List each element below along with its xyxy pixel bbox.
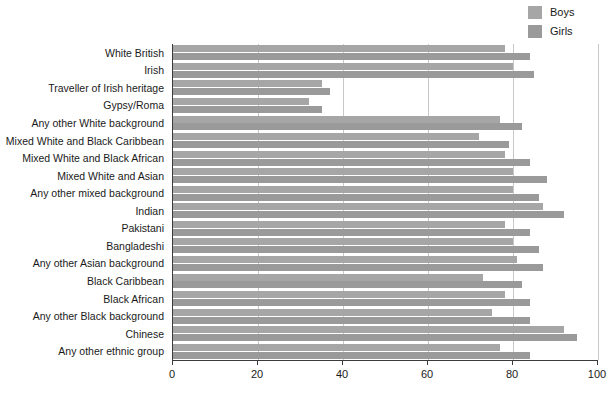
chart-root: Boys Girls White BritishIrishTraveller o… [0,0,611,395]
plot-inner [173,44,598,360]
legend-swatch-boys [528,6,542,19]
legend-swatch-girls [528,25,542,38]
y-axis-label: Any other White background [32,117,165,129]
y-axis-label: Any other ethnic group [58,345,164,357]
bar-boys [173,326,564,333]
x-axis-tick [512,360,513,365]
bar-boys [173,309,492,316]
y-axis-label: Irish [144,64,164,76]
bar-girls [173,352,530,359]
y-axis-label: Any other mixed background [30,187,164,199]
bar-boys [173,274,483,281]
y-axis-label: Bangladeshi [106,240,164,252]
bar-boys [173,344,500,351]
legend-item-boys: Boys [528,4,608,21]
plot-area [172,44,598,360]
bar-boys [173,168,513,175]
y-axis-label: Indian [135,205,164,217]
bar-girls [173,211,564,218]
y-axis-label: Traveller of Irish heritage [48,82,164,94]
bar-girls [173,246,539,253]
x-axis-tick [342,360,343,365]
x-axis-tick [172,360,173,365]
x-axis-tick-label: 40 [336,368,348,380]
legend-item-girls: Girls [528,23,608,40]
bar-boys [173,63,513,70]
bar-boys [173,291,505,298]
bar-girls [173,159,530,166]
bar-girls [173,88,330,95]
x-axis-tick [257,360,258,365]
bar-girls [173,141,509,148]
chart-legend: Boys Girls [528,4,608,42]
bar-girls [173,194,539,201]
bar-girls [173,106,322,113]
bar-girls [173,71,534,78]
y-axis-label: Any other Asian background [33,257,164,269]
bar-boys [173,98,309,105]
x-axis-tick [597,360,598,365]
bar-girls [173,317,530,324]
bar-girls [173,281,522,288]
x-axis-tick [427,360,428,365]
bar-boys [173,203,543,210]
bar-girls [173,229,530,236]
bar-girls [173,53,530,60]
y-axis-label: Black African [103,293,164,305]
x-axis-line [172,360,597,361]
bar-boys [173,80,322,87]
bar-boys [173,116,500,123]
bar-girls [173,264,543,271]
y-axis-label: Mixed White and Black African [22,152,164,164]
x-axis-tick-label: 0 [169,368,175,380]
y-axis-category-labels: White BritishIrishTraveller of Irish her… [0,44,168,360]
bar-girls [173,176,547,183]
bar-boys [173,238,513,245]
y-axis-label: Pakistani [121,222,164,234]
bar-girls [173,334,577,341]
x-axis-tick-label: 60 [421,368,433,380]
bar-boys [173,256,517,263]
bar-boys [173,151,505,158]
gridline [513,44,514,360]
y-axis-label: Any other Black background [33,310,164,322]
bar-boys [173,221,505,228]
bar-boys [173,186,513,193]
y-axis-label: Chinese [125,328,164,340]
bar-girls [173,123,522,130]
legend-label-girls: Girls [550,25,573,38]
y-axis-label: White British [105,47,164,59]
gridline [598,44,599,360]
y-axis-label: Mixed White and Asian [57,170,164,182]
x-axis-tick-label: 100 [588,368,606,380]
bar-boys [173,133,479,140]
y-axis-label: Black Caribbean [87,275,164,287]
legend-label-boys: Boys [550,6,574,19]
bar-chart: White BritishIrishTraveller of Irish her… [0,44,611,395]
x-axis-tick-label: 20 [251,368,263,380]
y-axis-label: Gypsy/Roma [103,99,164,111]
bar-girls [173,299,530,306]
y-axis-label: Mixed White and Black Caribbean [6,135,164,147]
bar-boys [173,45,505,52]
x-axis-tick-label: 80 [506,368,518,380]
